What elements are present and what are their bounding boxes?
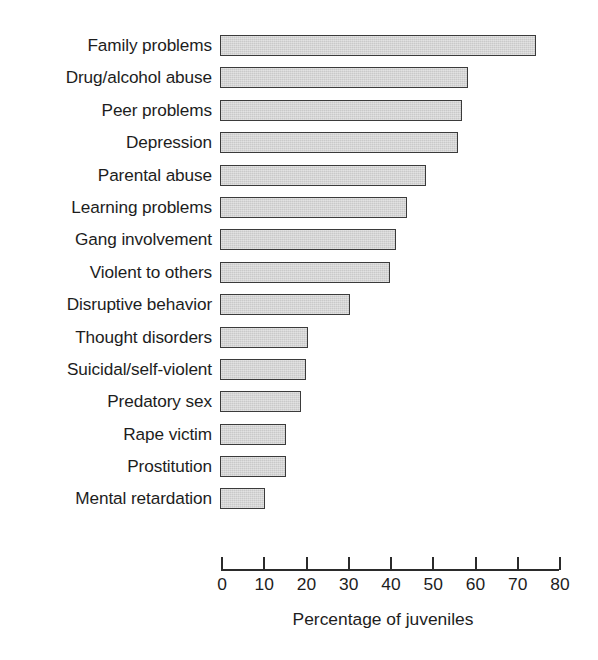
bar <box>220 132 458 153</box>
chart-row: Thought disorders <box>0 327 598 359</box>
category-label: Mental retardation <box>75 488 212 509</box>
chart-plot-area: Family problemsDrug/alcohol abusePeer pr… <box>0 35 598 521</box>
bar <box>220 35 536 56</box>
x-tick-label: 80 <box>540 574 580 595</box>
chart-row: Peer problems <box>0 100 598 132</box>
chart-row: Drug/alcohol abuse <box>0 67 598 99</box>
chart-row: Violent to others <box>0 262 598 294</box>
chart-row: Parental abuse <box>0 165 598 197</box>
chart-row: Family problems <box>0 35 598 67</box>
bar <box>220 488 265 509</box>
x-tick <box>348 557 350 570</box>
bar <box>220 100 462 121</box>
x-tick-label: 30 <box>329 574 369 595</box>
bar <box>220 262 390 283</box>
category-label: Family problems <box>87 35 212 56</box>
bar <box>220 456 286 477</box>
x-tick <box>559 557 561 570</box>
category-label: Prostitution <box>127 456 212 477</box>
bar <box>220 391 301 412</box>
chart-row: Learning problems <box>0 197 598 229</box>
category-label: Thought disorders <box>75 327 212 348</box>
chart-row: Disruptive behavior <box>0 294 598 326</box>
chart-row: Gang involvement <box>0 229 598 261</box>
category-label: Peer problems <box>102 100 212 121</box>
category-label: Drug/alcohol abuse <box>66 67 212 88</box>
chart-row: Suicidal/self-violent <box>0 359 598 391</box>
category-label: Suicidal/self-violent <box>67 359 212 380</box>
bar <box>220 229 396 250</box>
x-tick-label: 20 <box>287 574 327 595</box>
x-tick <box>432 557 434 570</box>
bar <box>220 197 407 218</box>
x-tick-label: 60 <box>456 574 496 595</box>
category-label: Parental abuse <box>98 165 212 186</box>
bar <box>220 67 468 88</box>
x-tick <box>263 557 265 570</box>
category-label: Disruptive behavior <box>67 294 212 315</box>
x-tick-label: 0 <box>202 574 242 595</box>
x-axis-title: Percentage of juveniles <box>0 609 598 630</box>
category-label: Predatory sex <box>107 391 212 412</box>
x-tick-label: 50 <box>413 574 453 595</box>
x-axis-title-text: Percentage of juveniles <box>293 609 474 630</box>
chart-row: Predatory sex <box>0 391 598 423</box>
x-tick <box>475 557 477 570</box>
horizontal-bar-chart: Family problemsDrug/alcohol abusePeer pr… <box>0 0 598 660</box>
chart-row: Depression <box>0 132 598 164</box>
bar <box>220 424 286 445</box>
x-tick <box>390 557 392 570</box>
x-tick <box>306 557 308 570</box>
x-tick-label: 40 <box>371 574 411 595</box>
x-axis-line <box>221 569 559 571</box>
category-label: Gang involvement <box>75 229 212 250</box>
category-label: Learning problems <box>71 197 212 218</box>
category-label: Depression <box>126 132 212 153</box>
bar <box>220 327 308 348</box>
category-label: Violent to others <box>90 262 212 283</box>
chart-row: Prostitution <box>0 456 598 488</box>
x-tick-label: 70 <box>498 574 538 595</box>
bar <box>220 165 426 186</box>
bar <box>220 294 350 315</box>
chart-row: Mental retardation <box>0 488 598 520</box>
x-tick <box>221 557 223 570</box>
bar <box>220 359 306 380</box>
category-label: Rape victim <box>123 424 212 445</box>
chart-row: Rape victim <box>0 424 598 456</box>
x-tick-label: 10 <box>244 574 284 595</box>
x-tick <box>517 557 519 570</box>
